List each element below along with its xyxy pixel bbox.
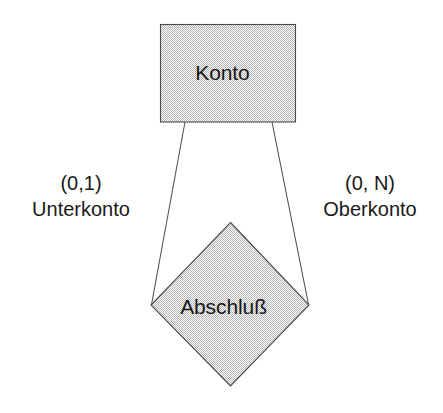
role-label-unterkonto: Unterkonto: [8, 198, 154, 221]
cardinality-label-right: (0, N): [297, 172, 443, 195]
role-label-oberkonto: Oberkonto: [297, 198, 443, 221]
cardinality-label-left: (0,1): [8, 172, 154, 195]
relationship-label-abschluss: Abschluß: [2, 296, 443, 318]
er-diagram: Konto Abschluß (0,1) Unterkonto (0, N) O…: [0, 0, 443, 413]
entity-label-konto: Konto: [1, 62, 443, 84]
edge-annotation-left: (0,1) Unterkonto: [8, 172, 154, 221]
edge-annotation-right: (0, N) Oberkonto: [297, 172, 443, 221]
